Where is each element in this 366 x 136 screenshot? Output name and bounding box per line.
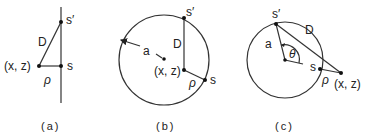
label-rho: ρ (321, 73, 329, 87)
label-s-prime: s′ (272, 7, 281, 21)
center-point (283, 58, 287, 62)
label-theta: θ (289, 47, 296, 61)
panel-b: s′ D a (x, z) ρ s (b) (119, 5, 216, 132)
label-s-prime: s′ (66, 13, 75, 27)
point-s (203, 78, 207, 82)
label-d: D (38, 35, 47, 49)
label-d: D (173, 37, 182, 51)
radius-a-tail (156, 54, 162, 58)
label-xz: (x, z) (4, 59, 31, 73)
panel-a: s′ D (x, z) s ρ (a) (4, 7, 75, 132)
point-s-prime (274, 22, 278, 26)
caption-b: (b) (156, 120, 175, 132)
point-xz (182, 68, 186, 72)
label-xz: (x, z) (154, 64, 181, 78)
caption-c: (c) (275, 120, 294, 132)
center-point (162, 57, 166, 61)
label-d: D (305, 23, 314, 37)
label-s: s (210, 73, 216, 87)
point-xz (37, 64, 41, 68)
geometry-figure: s′ D (x, z) s ρ (a) s′ D a (x, z) ρ s (b… (0, 0, 366, 136)
panel-c: s′ D a θ s ρ (x, z) (c) (247, 7, 361, 132)
caption-a: (a) (41, 120, 60, 132)
label-s: s (67, 59, 73, 73)
point-s (59, 64, 63, 68)
point-xz (339, 71, 343, 75)
label-rho: ρ (188, 76, 196, 90)
label-s-prime: s′ (186, 5, 195, 19)
label-a: a (143, 44, 150, 58)
label-rho: ρ (43, 73, 51, 87)
radius-a-arrow (121, 40, 140, 46)
label-xz: (x, z) (334, 77, 361, 91)
label-a: a (265, 37, 272, 51)
point-s (318, 67, 322, 71)
point-s-prime (59, 20, 63, 24)
label-s: s (310, 60, 316, 74)
